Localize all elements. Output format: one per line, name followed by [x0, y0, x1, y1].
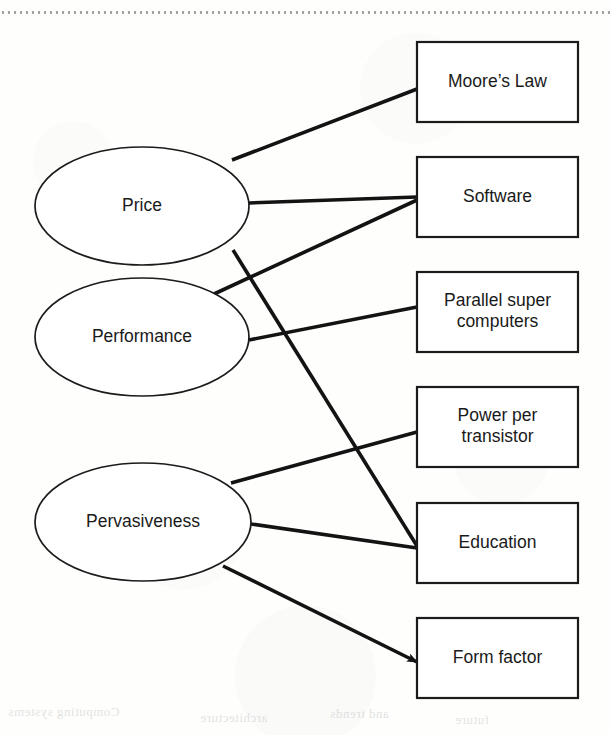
driver-label-price: Price [122, 195, 162, 215]
driver-node-performance[interactable]: Performance [35, 278, 249, 396]
outcome-label-software: Software [463, 186, 532, 206]
edge-performance-to-parallel [249, 307, 417, 340]
outcome-label-power: Power per [458, 405, 538, 425]
edges-layer [214, 89, 417, 662]
outcome-label-education: Education [459, 532, 537, 552]
outcome-node-power[interactable]: Power pertransistor [417, 387, 578, 467]
edge-price-to-software [249, 197, 417, 203]
outcome-label-moores-law: Moore’s Law [448, 71, 547, 91]
outcome-node-form-factor[interactable]: Form factor [417, 618, 578, 698]
driver-label-performance: Performance [92, 326, 192, 346]
concept-map-diagram: Moore’s LawSoftwareParallel supercompute… [0, 0, 611, 735]
outcome-node-moores-law[interactable]: Moore’s Law [417, 42, 578, 122]
edge-pervasiveness-to-power [231, 432, 417, 483]
outcome-label-form-factor: Form factor [453, 647, 543, 667]
driver-node-pervasiveness[interactable]: Pervasiveness [35, 463, 251, 581]
outcome-boxes-layer: Moore’s LawSoftwareParallel supercompute… [417, 42, 578, 698]
figure-canvas: Moore’s LawSoftwareParallel supercompute… [0, 0, 611, 735]
driver-node-price[interactable]: Price [35, 147, 249, 265]
outcome-label-power: transistor [462, 426, 534, 446]
edge-price-to-education [233, 250, 417, 546]
driver-label-pervasiveness: Pervasiveness [86, 511, 200, 531]
outcome-node-parallel[interactable]: Parallel supercomputers [417, 272, 578, 352]
outcome-label-parallel: computers [457, 311, 539, 331]
driver-ellipses-layer: PricePerformancePervasiveness [35, 147, 251, 581]
outcome-node-education[interactable]: Education [417, 503, 578, 583]
edge-pervasiveness-to-education [251, 524, 417, 548]
outcome-node-software[interactable]: Software [417, 157, 578, 237]
edge-price-to-moores-law [232, 89, 417, 160]
edge-pervasiveness-to-form [223, 566, 417, 662]
outcome-label-parallel: Parallel super [444, 290, 551, 310]
